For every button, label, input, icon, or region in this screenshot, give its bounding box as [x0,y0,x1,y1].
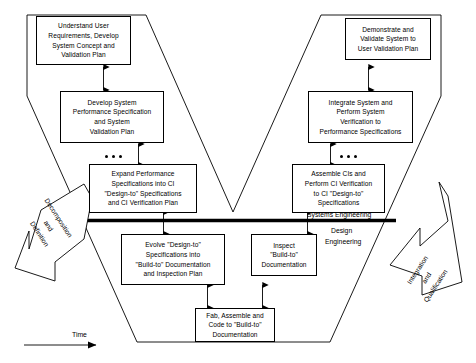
box-expand-performance-specifications[interactable]: Expand Performance Specifications into C… [89,164,197,213]
ellipsis-dot [347,155,350,158]
box-line: Validation Plan [90,127,135,137]
ellipsis-dot [112,155,115,158]
box-line: Fab, Assemble and [206,311,264,321]
box-line: Develop System [88,98,137,108]
box-demonstrate-and-validate-system[interactable]: Demonstrate and Validate System to User … [345,18,431,60]
ellipsis-dot [105,155,108,158]
box-line: Demonstrate and [362,25,414,35]
box-line: Specifications into CI [111,179,174,189]
design-engineering-label-line2: Engineering [325,237,361,246]
box-line: Documentation [212,330,257,340]
box-line: and CI Verification Plan [108,198,178,208]
box-line: User Validation Plan [358,44,419,54]
box-inspect-build-to-documentation[interactable]: Inspect "Build-to" Documentation [251,234,317,276]
box-line: Documentation [261,260,306,270]
ellipsis-dot [119,155,122,158]
box-fab-assemble-and-code[interactable]: Fab, Assemble and Code to "Build-to" Doc… [195,308,275,342]
left-ellipsis [105,155,122,158]
systems-engineering-label: Systems Engineering [307,210,371,219]
box-line: Perform CI Verification [305,179,372,189]
ellipsis-dot [354,155,357,158]
box-develop-system-performance-specification[interactable]: Develop System Performance Specification… [60,91,164,143]
box-line: Performance Specifications [320,127,402,137]
box-evolve-design-to-specifications[interactable]: Evolve "Design-to" Specifications into "… [121,234,225,285]
box-line: "Design-to" Specifications [104,189,181,199]
box-line: Verification to [340,117,381,127]
box-line: Validation Plan [61,50,106,60]
box-line: Perform System [336,107,384,117]
box-line: Expand Performance [111,169,174,179]
box-line: "Build-to" Documentation [136,260,211,270]
box-line: System Concept and [52,41,114,51]
box-line: Evolve "Design-to" [145,240,201,250]
design-engineering-label-line1: Design [331,226,352,235]
box-line: Performance Specification [73,107,152,117]
box-line: and System [94,117,129,127]
box-line: and Inspection Plan [143,269,202,279]
box-line: Code to "Build-to" [208,320,261,330]
box-assemble-cis-and-perform-ci-verification[interactable]: Assemble CIs and Perform CI Verification… [292,164,385,213]
box-understand-user-requirements[interactable]: Understand User Requirements, Develop Sy… [36,16,131,65]
right-ellipsis [340,155,357,158]
ellipsis-dot [340,155,343,158]
box-line: Integrate System and [329,98,393,108]
box-line: Inspect [273,241,295,251]
box-integrate-system-and-perform-verification[interactable]: Integrate System and Perform System Veri… [308,91,413,143]
box-line: Understand User [58,21,109,31]
box-line: to CI "Design-to" [314,189,364,199]
v-model-diagram-canvas: Understand User Requirements, Develop Sy… [0,0,476,363]
box-line: Requirements, Develop [48,31,118,41]
box-line: Assemble CIs and [311,169,366,179]
box-line: "Build-to" [270,250,298,260]
box-line: Specifications into [146,250,200,260]
box-line: Validate System to [360,34,416,44]
box-line: Specifications [318,198,360,208]
time-axis-label: Time [72,330,87,339]
